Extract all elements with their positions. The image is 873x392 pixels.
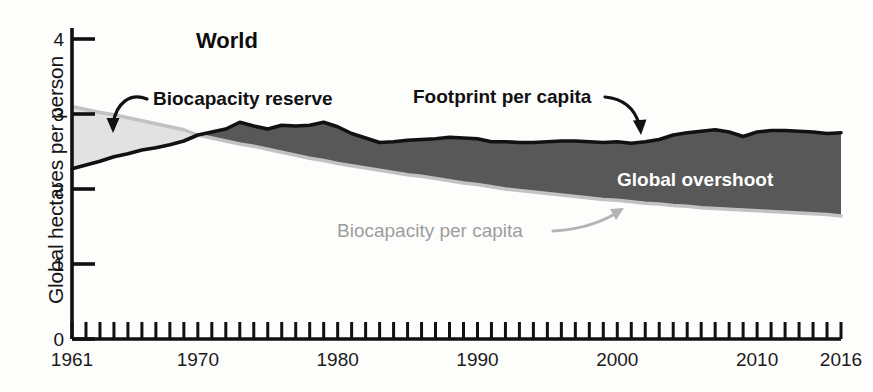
x-tick-label-2000: 2000 [596,349,638,370]
y-axis-ticks [72,39,95,339]
x-tick-label-1970: 1970 [177,349,219,370]
y-tick-label-0: 0 [53,329,64,350]
chart-title: World [196,28,258,53]
biocapacity-per-capita-label: Biocapacity per capita [337,220,523,241]
y-tick-label-2: 2 [53,179,64,200]
y-axis-tick-labels: 01234 [53,29,64,350]
chart-plot-area: 01234 1961197019801990200020102016 World… [0,0,873,392]
biocapacity-reserve-label: Biocapacity reserve [153,88,333,109]
footprint-per-capita-label: Footprint per capita [413,86,592,107]
footprint-per-capita-arrowhead [633,120,647,136]
x-tick-label-1990: 1990 [456,349,498,370]
y-tick-label-1: 1 [53,254,64,275]
footprint-per-capita-arrow [605,97,639,124]
x-axis-tick-labels: 1961197019801990200020102016 [51,349,862,370]
x-tick-label-1980: 1980 [317,349,359,370]
biocapacity-per-capita-arrow [553,214,615,231]
x-tick-label-2010: 2010 [736,349,778,370]
chart-figure: Global hectares per person 01234 1961197… [0,0,873,392]
global-overshoot-label: Global overshoot [617,169,774,190]
x-tick-label-2016: 2016 [820,349,862,370]
y-tick-label-4: 4 [53,29,64,50]
x-axis-ticks [72,322,841,339]
y-tick-label-3: 3 [53,104,64,125]
biocapacity-reserve-area [72,107,198,169]
x-tick-label-1961: 1961 [51,349,93,370]
area-fills [72,107,841,217]
